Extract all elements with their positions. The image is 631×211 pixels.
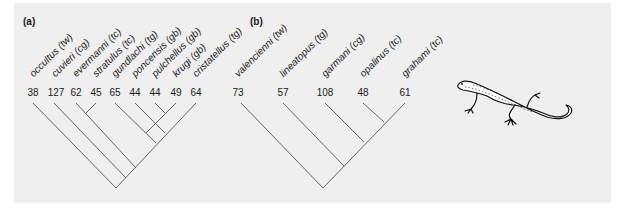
tree-b: [241, 103, 405, 188]
lizard-illustration: [455, 75, 585, 150]
tree-a: [33, 103, 196, 188]
